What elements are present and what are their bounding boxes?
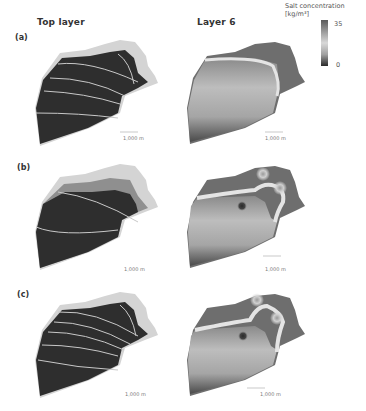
freshwater-lens (237, 201, 247, 211)
panel-label-a: (a) (15, 33, 28, 42)
scale-bar-a-layer6: 1,000 m (265, 135, 286, 141)
legend-max-label: 35 (334, 20, 342, 28)
scale-bar-a-top: 1,000 m (123, 135, 144, 141)
panel-label-b: (b) (17, 163, 30, 172)
map-b-top-layer (30, 162, 170, 272)
map-b-layer6 (185, 162, 315, 272)
scale-bar-c-top: 1,000 m (125, 391, 146, 397)
map-c-top-layer (30, 290, 170, 400)
freshwater-lens (270, 311, 284, 325)
domain-fresh (36, 190, 138, 268)
scale-bar-b-layer6: 1,000 m (265, 266, 286, 272)
top-layer-title: Top layer (37, 17, 85, 27)
legend-min-label: 0 (336, 61, 340, 69)
domain-mixing-zone (188, 326, 277, 394)
layer6-title: Layer 6 (197, 17, 236, 27)
freshwater-lens (256, 167, 270, 181)
legend-title: Salt concentration [kg/m³] (285, 2, 345, 18)
domain-mixing-zone (188, 58, 279, 142)
legend-title-line2: [kg/m³] (285, 10, 345, 18)
scale-bar-c-layer6: 1,000 m (260, 391, 281, 397)
map-a-top-layer (30, 38, 170, 148)
legend-colorbar (321, 20, 328, 66)
map-c-layer6 (185, 290, 315, 400)
legend-title-line1: Salt concentration (285, 2, 345, 10)
map-a-layer6 (185, 38, 315, 148)
freshwater-lens (250, 293, 264, 307)
freshwater-lens (273, 181, 287, 195)
panel-label-c: (c) (17, 290, 29, 299)
freshwater-lens (238, 331, 248, 341)
scale-bar-b-top: 1,000 m (124, 266, 145, 272)
